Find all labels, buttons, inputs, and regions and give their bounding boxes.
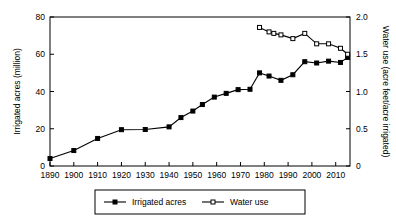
dual-axis-line-chart: 1890190019101920193019401950196019701980…	[0, 0, 396, 222]
x-axis-tick-label: 1990	[279, 170, 298, 180]
y-axis-right-tick-label: 1.5	[356, 49, 368, 59]
x-axis-tick-label: 1960	[207, 170, 226, 180]
x-axis-tick-label: 1910	[88, 170, 107, 180]
data-point-marker	[248, 87, 252, 91]
data-point-marker	[315, 42, 319, 46]
chart-container: 1890190019101920193019401950196019701980…	[0, 0, 396, 222]
series-line-1	[50, 57, 348, 158]
y-axis-left-tick-label: 80	[36, 12, 46, 22]
data-point-marker	[258, 25, 262, 29]
x-axis-tick-label: 1940	[160, 170, 179, 180]
x-axis-tick-label: 1900	[64, 170, 83, 180]
data-point-marker	[338, 46, 342, 50]
data-point-marker	[72, 149, 76, 153]
x-axis-tick-label: 1930	[136, 170, 155, 180]
data-point-marker	[167, 125, 171, 129]
data-point-marker	[338, 60, 342, 64]
x-axis-tick-label: 1890	[41, 170, 60, 180]
data-point-marker	[258, 71, 262, 75]
x-axis-tick-label: 1950	[183, 170, 202, 180]
x-axis-tick-label: 2000	[302, 170, 321, 180]
data-point-marker	[267, 30, 271, 34]
data-point-marker	[119, 128, 123, 132]
data-point-marker	[224, 91, 228, 95]
x-axis-tick-label: 1920	[112, 170, 131, 180]
legend-label-2: Water use	[230, 197, 269, 207]
data-point-marker	[236, 88, 240, 92]
data-point-marker	[96, 136, 100, 140]
data-point-marker	[315, 61, 319, 65]
data-point-marker	[179, 116, 183, 120]
legend-marker-2	[211, 200, 215, 204]
plot-frame	[50, 17, 350, 166]
data-point-marker	[291, 37, 295, 41]
y-axis-left-tick-label: 40	[36, 87, 46, 97]
y-axis-left-tick-label: 60	[36, 49, 46, 59]
y-axis-left-label: Irrigated acres (million)	[12, 48, 22, 135]
legend-label-1: Irrigated acres	[132, 197, 186, 207]
x-axis-tick-label: 1980	[255, 170, 274, 180]
data-point-marker	[303, 31, 307, 35]
y-axis-right-tick-label: 0	[356, 161, 361, 171]
data-point-marker	[191, 109, 195, 113]
data-point-marker	[346, 52, 350, 56]
data-point-marker	[143, 128, 147, 132]
data-point-marker	[279, 78, 283, 82]
y-axis-right-tick-label: 0.5	[356, 124, 368, 134]
data-point-marker	[200, 103, 204, 107]
y-axis-right-label: Water use (acre feet/acre irrigated)	[381, 26, 391, 158]
data-point-marker	[327, 42, 331, 46]
data-point-marker	[303, 60, 307, 64]
y-axis-right-tick-label: 1.0	[356, 87, 368, 97]
y-axis-right-tick-label: 2.0	[356, 12, 368, 22]
data-point-marker	[267, 74, 271, 78]
data-point-marker	[291, 73, 295, 77]
data-point-marker	[279, 33, 283, 37]
x-axis-tick-label: 1970	[231, 170, 250, 180]
data-point-marker	[272, 31, 276, 35]
data-point-marker	[327, 59, 331, 63]
data-point-marker	[212, 95, 216, 99]
y-axis-left-tick-label: 0	[40, 161, 45, 171]
legend-box	[95, 190, 305, 214]
y-axis-left-tick-label: 20	[36, 124, 46, 134]
x-axis-tick-label: 2010	[326, 170, 345, 180]
legend-marker-1	[113, 200, 117, 204]
data-point-marker	[48, 157, 52, 161]
